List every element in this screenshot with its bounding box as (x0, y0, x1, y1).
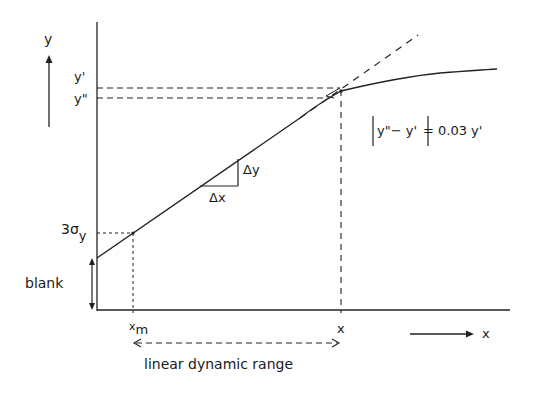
y-double-prime-label: y" (74, 92, 88, 105)
response-curve (97, 69, 497, 258)
y-direction-arrow-icon (46, 55, 53, 127)
x-m-subscript: m (136, 322, 149, 337)
x-axis-label: x (482, 327, 490, 340)
three-sigma-label: 3σy (61, 222, 86, 236)
dynamic-range-arrow-icon (134, 339, 339, 347)
slope-triangle (200, 159, 238, 186)
delta-x-label: Δx (209, 191, 226, 204)
x-limit-label: x (337, 322, 345, 335)
deviation-formula: |y" − y'| = 0.03 y' y"− y'= 0.03 y' (377, 124, 482, 137)
x-direction-arrow-icon (410, 331, 474, 338)
three-sigma-text: 3σ (61, 221, 79, 237)
linear-dynamic-range-label: linear dynamic range (144, 357, 293, 371)
diagram-canvas (0, 0, 535, 393)
delta-y-label: Δy (243, 163, 260, 176)
blank-label: blank (25, 276, 63, 290)
three-sigma-subscript: y (79, 228, 87, 243)
y-axis-label: y (44, 32, 52, 46)
x-m-text: x (129, 320, 136, 333)
blank-double-arrow-icon (89, 258, 95, 310)
x-m-label: xm (129, 319, 148, 332)
y-prime-label: y' (74, 70, 85, 83)
